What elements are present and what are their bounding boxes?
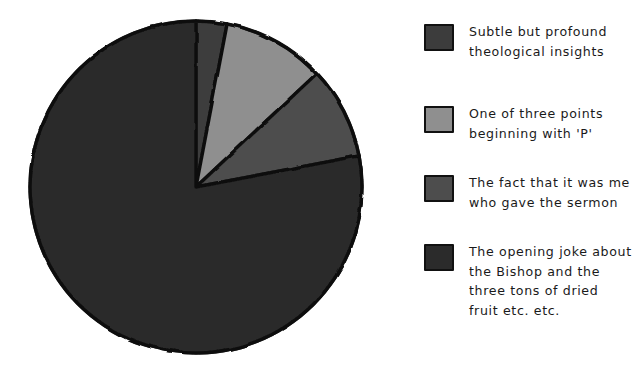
legend-item-gave-the-sermon[interactable]: The fact that it was me who gave the ser… [424, 173, 630, 212]
legend-swatch-theological-insights [424, 24, 454, 51]
legend-label-three-points-p: One of three points beginning with 'P' [469, 104, 603, 143]
chart-legend: Subtle but profound theological insights… [424, 14, 636, 359]
legend-swatch-gave-the-sermon [424, 175, 454, 202]
legend-label-theological-insights: Subtle but profound theological insights [469, 22, 607, 61]
legend-label-gave-the-sermon: The fact that it was me who gave the ser… [469, 173, 630, 212]
pie-slices-group [30, 21, 362, 353]
pie-chart-area [0, 0, 400, 377]
pie-chart-svg [0, 0, 400, 377]
legend-item-theological-insights[interactable]: Subtle but profound theological insights [424, 22, 607, 61]
legend-swatch-three-points-p [424, 106, 454, 133]
legend-swatch-opening-joke [424, 244, 454, 271]
legend-label-opening-joke: The opening joke about the Bishop and th… [469, 242, 632, 320]
legend-item-three-points-p[interactable]: One of three points beginning with 'P' [424, 104, 603, 143]
legend-item-opening-joke[interactable]: The opening joke about the Bishop and th… [424, 242, 632, 320]
